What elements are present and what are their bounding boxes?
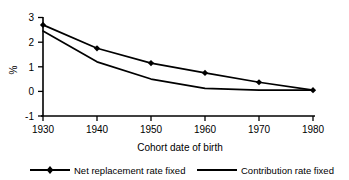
y-tick-label-minus1: -1 bbox=[25, 111, 34, 122]
x-tick-label-1950: 1950 bbox=[140, 124, 163, 135]
y-axis-title: % bbox=[8, 65, 19, 74]
legend-label-net-replacement-rate-fixed: Net replacement rate fixed bbox=[74, 165, 185, 176]
x-tick-label-1980: 1980 bbox=[302, 124, 325, 135]
line-chart: 3 2 1 0 -1 1930 1940 1950 1960 1970 1980… bbox=[0, 0, 349, 180]
y-tick-label-1: 1 bbox=[28, 62, 34, 73]
legend-label-contribution-rate-fixed: Contribution rate fixed bbox=[241, 165, 334, 176]
y-tick-label-3: 3 bbox=[28, 12, 34, 23]
x-axis-title: Cohort date of birth bbox=[137, 142, 223, 153]
x-tick-label-1930: 1930 bbox=[32, 124, 55, 135]
chart-legend: Net replacement rate fixed Contribution … bbox=[30, 165, 334, 176]
x-tick-label-1940: 1940 bbox=[86, 124, 109, 135]
x-tick-label-1970: 1970 bbox=[248, 124, 271, 135]
y-tick-label-0: 0 bbox=[28, 86, 34, 97]
chart-canvas: 3 2 1 0 -1 1930 1940 1950 1960 1970 1980… bbox=[0, 0, 349, 180]
y-tick-label-2: 2 bbox=[28, 37, 34, 48]
x-tick-label-1960: 1960 bbox=[194, 124, 217, 135]
